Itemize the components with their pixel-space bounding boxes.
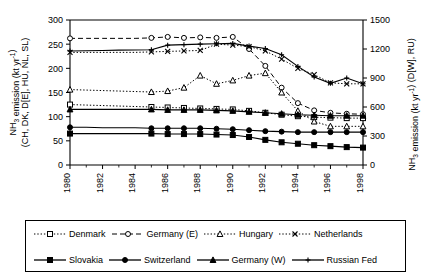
legend-symbol-plus xyxy=(290,253,326,267)
x-tick-label: 1998 xyxy=(355,173,365,193)
legend-item-label: Denmark xyxy=(68,229,106,239)
legend-item-hungary[interactable]: Hungary xyxy=(202,227,273,241)
y-left-tick-label: 200 xyxy=(48,64,63,74)
legend-symbol-filled-circle xyxy=(107,253,143,267)
legend-item-denmark[interactable]: Denmark xyxy=(32,227,106,241)
y-left-tick-label: 0 xyxy=(58,160,63,170)
legend-item-label: Germany (W) xyxy=(231,255,286,265)
x-tick-label: 1996 xyxy=(322,173,332,193)
y-axis-left-subtitle: (CH, DK, D[E], HU, NL, SL) xyxy=(20,38,30,148)
legend-item-germany-e[interactable]: Germany (E) xyxy=(110,227,199,241)
legend-item-label: Switzerland xyxy=(143,255,191,265)
series-russian-fed xyxy=(68,41,366,86)
y-left-tick-label: 300 xyxy=(48,15,63,25)
legend-symbol-x xyxy=(277,227,313,241)
legend-item-label: Germany (E) xyxy=(146,229,199,239)
y-right-tick-label: 600 xyxy=(370,102,385,112)
legend-item-switzerland[interactable]: Switzerland xyxy=(107,253,191,267)
y-axis-left-title: NH3 emission (kt yr-1) xyxy=(7,50,20,136)
series-layer xyxy=(67,34,366,150)
legend-item-slovakia[interactable]: Slovakia xyxy=(32,253,103,267)
y-right-tick-label: 1500 xyxy=(370,15,390,25)
series-hungary xyxy=(67,70,366,129)
legend-item-label: Netherlands xyxy=(313,229,363,239)
chart-plot-area: 0501001502002503000300600900120015001980… xyxy=(0,0,431,218)
y-left-tick-label: 250 xyxy=(48,40,63,50)
legend-symbol-filled-triangle xyxy=(195,253,231,267)
legend-symbol-open-circle xyxy=(110,227,146,241)
series-germany-e xyxy=(68,34,366,116)
series-germany-w xyxy=(67,106,366,118)
legend-item-russian-fed[interactable]: Russian Fed xyxy=(290,253,378,267)
x-tick-label: 1980 xyxy=(62,173,72,193)
chart-figure-root: 0501001502002503000300600900120015001980… xyxy=(0,0,431,279)
legend-item-label: Slovakia xyxy=(68,255,103,265)
x-tick-label: 1986 xyxy=(160,173,170,193)
x-tick-label: 1982 xyxy=(95,173,105,193)
legend-symbol-open-triangle xyxy=(202,227,238,241)
legend-symbol-filled-square xyxy=(32,253,68,267)
legend-symbol-open-square xyxy=(32,227,68,241)
x-tick-label: 1984 xyxy=(127,173,137,193)
legend-item-netherlands[interactable]: Netherlands xyxy=(277,227,363,241)
legend-row-2: SlovakiaSwitzerlandGermany (W)Russian Fe… xyxy=(26,247,405,273)
x-tick-label: 1994 xyxy=(290,173,300,193)
legend-item-label: Russian Fed xyxy=(326,255,378,265)
y-right-tick-label: 0 xyxy=(370,160,375,170)
chart-legend: DenmarkGermany (E)HungaryNetherlands Slo… xyxy=(25,220,406,272)
series-slovakia xyxy=(68,131,366,150)
x-tick-label: 1988 xyxy=(192,173,202,193)
x-tick-label: 1990 xyxy=(225,173,235,193)
y-left-tick-label: 100 xyxy=(48,112,63,122)
y-left-tick-label: 150 xyxy=(48,88,63,98)
legend-item-label: Hungary xyxy=(238,229,273,239)
chart-figure: 0501001502002503000300600900120015001980… xyxy=(0,0,431,218)
x-tick-label: 1992 xyxy=(257,173,267,193)
y-right-tick-label: 1200 xyxy=(370,44,390,54)
legend-row-1: DenmarkGermany (E)HungaryNetherlands xyxy=(26,221,405,247)
y-right-tick-label: 900 xyxy=(370,73,385,83)
legend-item-germany-w[interactable]: Germany (W) xyxy=(195,253,286,267)
y-left-tick-label: 50 xyxy=(53,136,63,146)
y-axis-right-title: NH3 emission (kt yr-1) (D[W], RU) xyxy=(406,38,419,170)
y-right-tick-label: 300 xyxy=(370,131,385,141)
